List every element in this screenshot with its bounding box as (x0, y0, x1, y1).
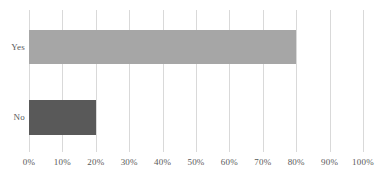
x-tick-label-20pct: 20% (87, 157, 104, 167)
bar-row-yes (29, 30, 363, 64)
x-tick-label-100pct: 100% (352, 157, 374, 167)
gridline-100pct (363, 10, 364, 152)
x-tick-label-70pct: 70% (254, 157, 271, 167)
x-tick-label-0pct: 0% (23, 157, 35, 167)
x-axis-tick-labels: 0%10%20%30%40%50%60%70%80%90%100% (29, 157, 363, 173)
x-tick-label-40pct: 40% (154, 157, 171, 167)
category-label-no: No (0, 112, 25, 122)
x-tick-label-80pct: 80% (288, 157, 305, 167)
bar-chart: Yes No 0%10%20%30%40%50%60%70%80%90%100% (0, 0, 388, 185)
x-tick-label-90pct: 90% (321, 157, 338, 167)
x-tick-label-10pct: 10% (54, 157, 71, 167)
bar-row-no (29, 100, 363, 135)
x-tick-label-60pct: 60% (221, 157, 238, 167)
category-label-yes: Yes (0, 42, 25, 52)
x-tick-label-50pct: 50% (187, 157, 204, 167)
bar-yes[interactable] (29, 30, 296, 64)
x-tick-label-30pct: 30% (121, 157, 138, 167)
bar-no[interactable] (29, 100, 96, 135)
plot-area (29, 10, 363, 152)
